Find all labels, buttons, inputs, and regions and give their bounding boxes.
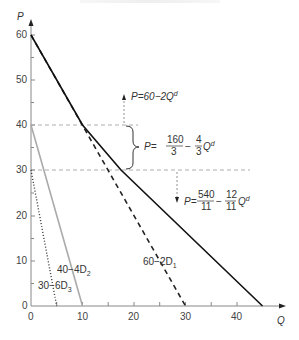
svg-text:P=: P= <box>144 141 157 152</box>
svg-text:20: 20 <box>128 311 140 322</box>
y-ticks <box>31 35 35 284</box>
svg-text:30: 30 <box>16 164 28 175</box>
arrow-up-icon <box>122 94 126 100</box>
svg-text:11: 11 <box>226 201 237 212</box>
svg-text:Qd: Qd <box>238 195 251 207</box>
svg-text:40: 40 <box>231 311 243 322</box>
svg-text:160: 160 <box>167 134 184 145</box>
svg-text:Qd: Qd <box>203 140 216 152</box>
label-d1: 60−2D1 <box>143 256 177 269</box>
svg-text:11: 11 <box>201 201 212 212</box>
svg-text:3: 3 <box>196 146 202 157</box>
x-axis-label: Q <box>277 315 285 326</box>
svg-text:60: 60 <box>16 29 28 40</box>
svg-text:20: 20 <box>16 210 28 221</box>
y-axis-arrow-icon <box>29 19 34 26</box>
eq-top: P=60−2Qd <box>131 90 179 102</box>
brace-icon <box>126 126 139 169</box>
svg-text:−: − <box>185 141 191 152</box>
x-ticks <box>57 302 237 306</box>
arrow-down-icon <box>175 197 179 203</box>
svg-text:12: 12 <box>226 189 238 200</box>
demand-chart: P Q 60 50 40 30 20 10 0 0 10 20 30 40 <box>0 0 299 340</box>
svg-text:10: 10 <box>77 311 89 322</box>
label-d3: 30−6D3 <box>38 280 72 293</box>
demand-line-d2 <box>31 125 83 306</box>
svg-text:4: 4 <box>196 134 202 145</box>
svg-text:0: 0 <box>22 300 28 311</box>
svg-text:40: 40 <box>16 119 28 130</box>
svg-text:540: 540 <box>198 189 215 200</box>
svg-text:3: 3 <box>171 146 177 157</box>
x-axis-arrow-icon <box>279 304 286 309</box>
y-tick-labels: 60 50 40 30 20 10 0 <box>16 29 28 311</box>
y-axis-label: P <box>17 11 24 22</box>
eq-bottom: P= 540 11 − 12 11 Qd <box>184 189 251 212</box>
svg-text:10: 10 <box>16 255 28 266</box>
axes: P Q <box>17 11 286 326</box>
eq-middle: P= 160 3 − 4 3 Qd <box>144 134 216 157</box>
svg-text:0: 0 <box>28 311 34 322</box>
svg-text:P=: P= <box>184 196 197 207</box>
svg-text:−: − <box>216 196 222 207</box>
svg-text:30: 30 <box>180 311 192 322</box>
x-tick-labels: 0 10 20 30 40 <box>28 311 243 322</box>
svg-text:50: 50 <box>16 74 28 85</box>
